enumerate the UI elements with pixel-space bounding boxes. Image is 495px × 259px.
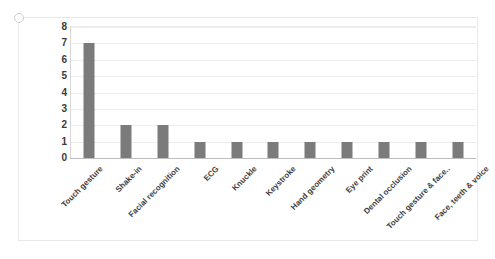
bar[interactable] bbox=[158, 125, 169, 158]
bar-slot bbox=[218, 27, 255, 158]
y-axis-tick-label: 4 bbox=[52, 88, 67, 98]
bar-slot bbox=[71, 27, 108, 158]
bar-slot bbox=[181, 27, 218, 158]
bar[interactable] bbox=[452, 142, 463, 158]
chart-plot-wrapper: 012345678 bbox=[52, 26, 476, 168]
bar-slot bbox=[145, 27, 182, 158]
bar-slot bbox=[402, 27, 439, 158]
bar-slot bbox=[329, 27, 366, 158]
bar-slot bbox=[366, 27, 403, 158]
y-axis-tick-label: 5 bbox=[52, 71, 67, 81]
bar[interactable] bbox=[231, 142, 242, 158]
y-axis-tick-label: 8 bbox=[52, 22, 67, 32]
embedded-chart-object[interactable]: 012345678 Touch gestureShake-inFacial re… bbox=[18, 17, 478, 241]
bar[interactable] bbox=[84, 43, 95, 158]
bar-series bbox=[71, 27, 476, 158]
bar[interactable] bbox=[194, 142, 205, 158]
bar[interactable] bbox=[378, 142, 389, 158]
bar-slot bbox=[292, 27, 329, 158]
x-axis-category-label: ECG bbox=[203, 165, 221, 183]
x-axis-category-label: Touch gesture bbox=[61, 165, 105, 209]
y-axis-tick-label: 2 bbox=[52, 120, 67, 130]
bar-slot bbox=[108, 27, 145, 158]
y-axis-tick-label: 0 bbox=[52, 153, 67, 163]
x-axis-category-label: Eye print bbox=[345, 165, 375, 195]
resize-handle-top-left[interactable] bbox=[14, 13, 24, 23]
plot-area bbox=[70, 26, 476, 159]
bar[interactable] bbox=[342, 142, 353, 158]
bar[interactable] bbox=[268, 142, 279, 158]
x-axis-category-label: Knuckle bbox=[231, 165, 259, 193]
bar[interactable] bbox=[305, 142, 316, 158]
bar[interactable] bbox=[121, 125, 132, 158]
x-axis-category-label: Keystroke bbox=[265, 165, 298, 198]
y-axis-tick-label: 6 bbox=[52, 55, 67, 65]
x-axis-category-label: Shake-in bbox=[114, 165, 144, 195]
bar[interactable] bbox=[415, 142, 426, 158]
bar-slot bbox=[255, 27, 292, 158]
x-axis-category-labels: Touch gestureShake-inFacial recognitionE… bbox=[70, 165, 494, 240]
y-axis-tick-label: 7 bbox=[52, 38, 67, 48]
y-axis: 012345678 bbox=[52, 26, 67, 168]
y-axis-tick-label: 3 bbox=[52, 104, 67, 114]
y-axis-tick-label: 1 bbox=[52, 137, 67, 147]
bar-slot bbox=[439, 27, 476, 158]
